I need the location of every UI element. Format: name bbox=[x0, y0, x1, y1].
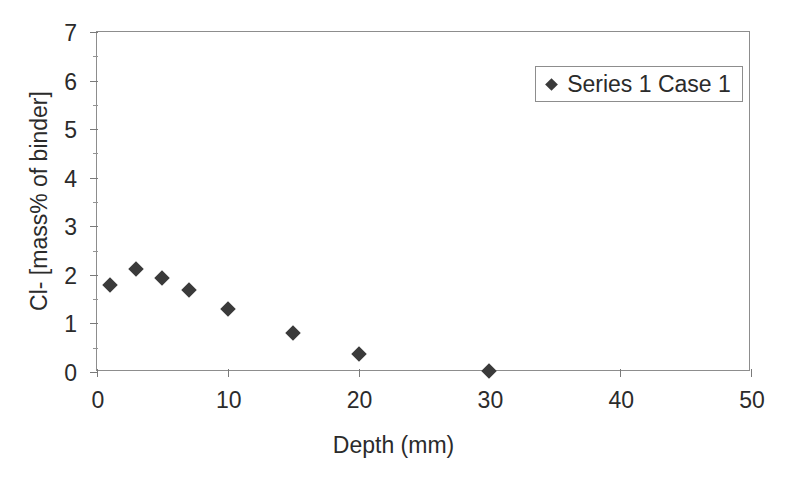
y-minor-tick bbox=[93, 153, 98, 154]
y-tick-4: 4 bbox=[90, 178, 98, 179]
legend-label: Series 1 Case 1 bbox=[567, 73, 731, 96]
x-tick-label-20: 20 bbox=[347, 389, 373, 412]
y-tick-label-7: 7 bbox=[64, 22, 77, 45]
x-tick-50: 50 bbox=[751, 369, 752, 377]
y-tick-3: 3 bbox=[90, 226, 98, 227]
chart-figure: 01234567 01020304050 Series 1 Case 1 Dep… bbox=[0, 0, 787, 496]
x-tick-label-0: 0 bbox=[92, 389, 105, 412]
x-tick-20: 20 bbox=[359, 369, 360, 377]
y-tick-label-1: 1 bbox=[64, 313, 77, 336]
x-tick-10: 10 bbox=[228, 369, 229, 377]
y-tick-7: 7 bbox=[90, 32, 98, 33]
y-tick-label-0: 0 bbox=[64, 362, 77, 385]
data-point bbox=[102, 277, 118, 293]
x-tick-label-30: 30 bbox=[478, 389, 504, 412]
y-tick-label-5: 5 bbox=[64, 119, 77, 142]
data-point bbox=[351, 346, 367, 362]
y-tick-label-2: 2 bbox=[64, 264, 77, 287]
y-axis-title: Cl- [mass% of binder] bbox=[22, 31, 56, 371]
y-tick-1: 1 bbox=[90, 323, 98, 324]
y-minor-tick bbox=[93, 251, 98, 252]
x-tick-label-40: 40 bbox=[608, 389, 634, 412]
y-tick-2: 2 bbox=[90, 275, 98, 276]
y-tick-label-4: 4 bbox=[64, 167, 77, 190]
y-tick-label-6: 6 bbox=[64, 70, 77, 93]
data-point bbox=[285, 325, 301, 341]
x-tick-0: 0 bbox=[97, 369, 98, 377]
x-tick-40: 40 bbox=[620, 369, 621, 377]
y-tick-label-3: 3 bbox=[64, 216, 77, 239]
data-point bbox=[128, 261, 144, 277]
y-tick-5: 5 bbox=[90, 129, 98, 130]
data-point bbox=[181, 283, 197, 299]
x-tick-label-10: 10 bbox=[216, 389, 242, 412]
y-minor-tick bbox=[93, 299, 98, 300]
plot-area: 01234567 01020304050 Series 1 Case 1 bbox=[96, 31, 750, 371]
y-minor-tick bbox=[93, 56, 98, 57]
y-minor-tick bbox=[93, 348, 98, 349]
data-point bbox=[482, 363, 498, 379]
y-minor-tick bbox=[93, 202, 98, 203]
x-axis-title: Depth (mm) bbox=[0, 432, 787, 459]
y-tick-6: 6 bbox=[90, 81, 98, 82]
data-point bbox=[220, 301, 236, 317]
legend-diamond-marker-icon bbox=[545, 78, 558, 91]
x-tick-label-50: 50 bbox=[739, 389, 765, 412]
y-minor-tick bbox=[93, 105, 98, 106]
data-point bbox=[155, 270, 171, 286]
chart-legend: Series 1 Case 1 bbox=[535, 66, 743, 102]
